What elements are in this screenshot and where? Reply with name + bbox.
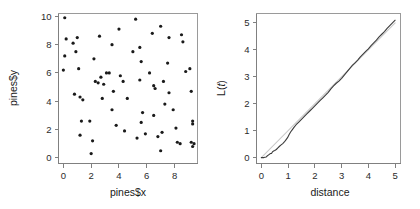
scatter-x-tick-label: 8	[172, 170, 177, 181]
scatter-data-point	[160, 131, 163, 134]
scatter-data-point	[126, 97, 129, 100]
scatter-data-point	[192, 142, 195, 145]
scatter-data-point	[154, 87, 157, 90]
scatter-x-tick-label: 0	[61, 170, 66, 181]
lfunction-x-tick-label: 4	[366, 170, 371, 181]
scatter-points-group	[62, 16, 196, 155]
scatter-data-point	[119, 74, 122, 77]
scatter-data-point	[91, 139, 94, 142]
scatter-data-point	[159, 25, 162, 28]
lfunction-y-title-suffix: )	[215, 80, 227, 84]
scatter-data-point	[78, 95, 81, 98]
scatter-y-tick-label: 0	[46, 152, 51, 163]
scatter-data-point	[148, 71, 151, 74]
lfunction-x-axis-title: distance	[310, 186, 349, 198]
scatter-data-point	[94, 80, 97, 83]
scatter-data-point	[65, 37, 68, 40]
scatter-x-tick-label: 6	[144, 170, 149, 181]
lfunction-x-tick-label: 5	[392, 170, 397, 181]
scatter-data-point	[71, 42, 74, 45]
scatter-data-point	[81, 98, 84, 101]
scatter-data-point	[73, 93, 76, 96]
lfunction-y-tick-label: 0	[244, 152, 249, 163]
scatter-data-point	[97, 81, 100, 84]
lfunction-plot-svg: 012345 012345 distance L(t)	[210, 0, 420, 209]
scatter-data-point	[135, 136, 138, 139]
lfunction-panel: 012345 012345 distance L(t)	[210, 0, 420, 209]
scatter-data-point	[141, 111, 144, 114]
scatter-data-point	[131, 50, 134, 53]
scatter-data-point	[191, 145, 194, 148]
scatter-data-point	[99, 76, 102, 79]
scatter-data-point	[151, 32, 154, 35]
scatter-data-point	[62, 69, 65, 72]
scatter-data-point	[167, 36, 170, 39]
scatter-data-point	[117, 27, 120, 30]
scatter-data-point	[98, 35, 101, 38]
lfunction-x-tick-label: 2	[312, 170, 317, 181]
scatter-data-point	[191, 119, 194, 122]
scatter-data-point	[92, 57, 95, 60]
scatter-x-tick-label: 2	[89, 170, 94, 181]
scatter-data-point	[112, 90, 115, 93]
scatter-data-point	[163, 102, 166, 105]
scatter-plot-svg: 0246810 02468 pines$x pines$y	[0, 0, 210, 209]
scatter-data-point	[140, 121, 143, 124]
scatter-x-tick-label: 4	[116, 170, 121, 181]
scatter-data-point	[102, 83, 105, 86]
scatter-data-point	[152, 114, 155, 117]
scatter-x-axis-title: pines$x	[110, 186, 147, 198]
lfunction-y-tick-label: 2	[244, 98, 249, 109]
scatter-data-point	[74, 50, 77, 53]
scatter-data-point	[190, 141, 193, 144]
scatter-data-point	[115, 124, 118, 127]
scatter-data-point	[152, 84, 155, 87]
r-plot-figure: 0246810 02468 pines$x pines$y 012345 012…	[0, 0, 420, 209]
scatter-data-point	[76, 36, 79, 39]
scatter-data-point	[122, 80, 125, 83]
lfunction-y-axis-title: L(t)	[215, 80, 227, 96]
lfunction-y-axis: 012345	[244, 14, 256, 164]
lfunction-x-tick-label: 0	[259, 170, 264, 181]
theoretical-poisson-line	[261, 23, 395, 158]
lfunction-y-tick-label: 1	[244, 125, 249, 136]
scatter-data-point	[144, 132, 147, 135]
scatter-y-tick-label: 6	[46, 67, 51, 78]
scatter-data-point	[134, 18, 137, 21]
lfunction-x-tick-label: 1	[285, 170, 290, 181]
scatter-data-point	[162, 80, 165, 83]
scatter-data-point	[176, 141, 179, 144]
scatter-data-point	[77, 67, 80, 70]
scatter-y-axis-title: pines$y	[7, 69, 19, 106]
scatter-data-point	[172, 108, 175, 111]
lfunction-y-tick-label: 4	[244, 44, 249, 55]
scatter-data-point	[180, 33, 183, 36]
scatter-data-point	[138, 46, 141, 49]
lfunction-x-tick-label: 3	[339, 170, 344, 181]
scatter-data-point	[184, 70, 187, 73]
scatter-x-axis: 02468	[59, 164, 198, 181]
scatter-data-point	[105, 71, 108, 74]
scatter-data-point	[166, 61, 169, 64]
scatter-data-point	[181, 40, 184, 43]
scatter-data-point	[78, 134, 81, 137]
scatter-data-point	[101, 97, 104, 100]
scatter-panel: 0246810 02468 pines$x pines$y	[0, 0, 210, 209]
scatter-data-point	[179, 142, 182, 145]
scatter-data-point	[167, 91, 170, 94]
scatter-data-point	[123, 129, 126, 132]
scatter-y-tick-label: 4	[46, 96, 51, 107]
scatter-data-point	[191, 122, 194, 125]
scatter-data-point	[110, 43, 113, 46]
scatter-data-point	[110, 108, 113, 111]
scatter-data-point	[190, 90, 193, 93]
lfunction-y-tick-label: 3	[244, 71, 249, 82]
scatter-y-tick-label: 8	[46, 39, 51, 50]
lfunction-y-tick-label: 5	[244, 17, 249, 28]
scatter-data-point	[90, 152, 93, 155]
scatter-data-point	[80, 119, 83, 122]
lfunction-x-axis: 012345	[257, 164, 401, 181]
scatter-data-point	[159, 149, 162, 152]
scatter-data-point	[88, 119, 91, 122]
scatter-data-point	[174, 127, 177, 130]
